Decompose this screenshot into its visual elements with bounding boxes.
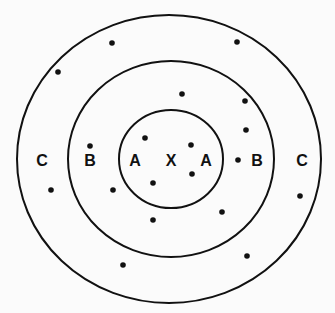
data-point — [244, 253, 250, 259]
data-point — [242, 98, 248, 104]
data-point — [87, 143, 93, 149]
data-point — [189, 171, 195, 177]
concentric-zone-diagram: CBAXABC — [0, 0, 335, 313]
data-point — [48, 187, 54, 193]
data-point — [234, 39, 240, 45]
data-point — [150, 180, 156, 186]
data-point — [235, 157, 241, 163]
data-point — [188, 142, 194, 148]
data-point — [150, 217, 156, 223]
data-point — [110, 187, 116, 193]
zone-label-c: C — [296, 152, 308, 169]
data-point — [243, 127, 249, 133]
data-point — [219, 209, 225, 215]
zone-label-b: B — [84, 152, 96, 169]
zone-label-a: A — [129, 152, 141, 169]
zone-label-a: A — [200, 152, 212, 169]
data-point — [179, 91, 185, 97]
zone-label-c: C — [36, 152, 48, 169]
data-point — [120, 262, 126, 268]
zone-label-x: X — [166, 152, 177, 169]
data-point — [55, 69, 61, 75]
data-point — [297, 193, 303, 199]
data-point — [142, 135, 148, 141]
zone-label-b: B — [251, 152, 263, 169]
data-point — [109, 40, 115, 46]
zone-labels: CBAXABC — [36, 152, 308, 169]
diagram-canvas: CBAXABC — [0, 0, 335, 313]
